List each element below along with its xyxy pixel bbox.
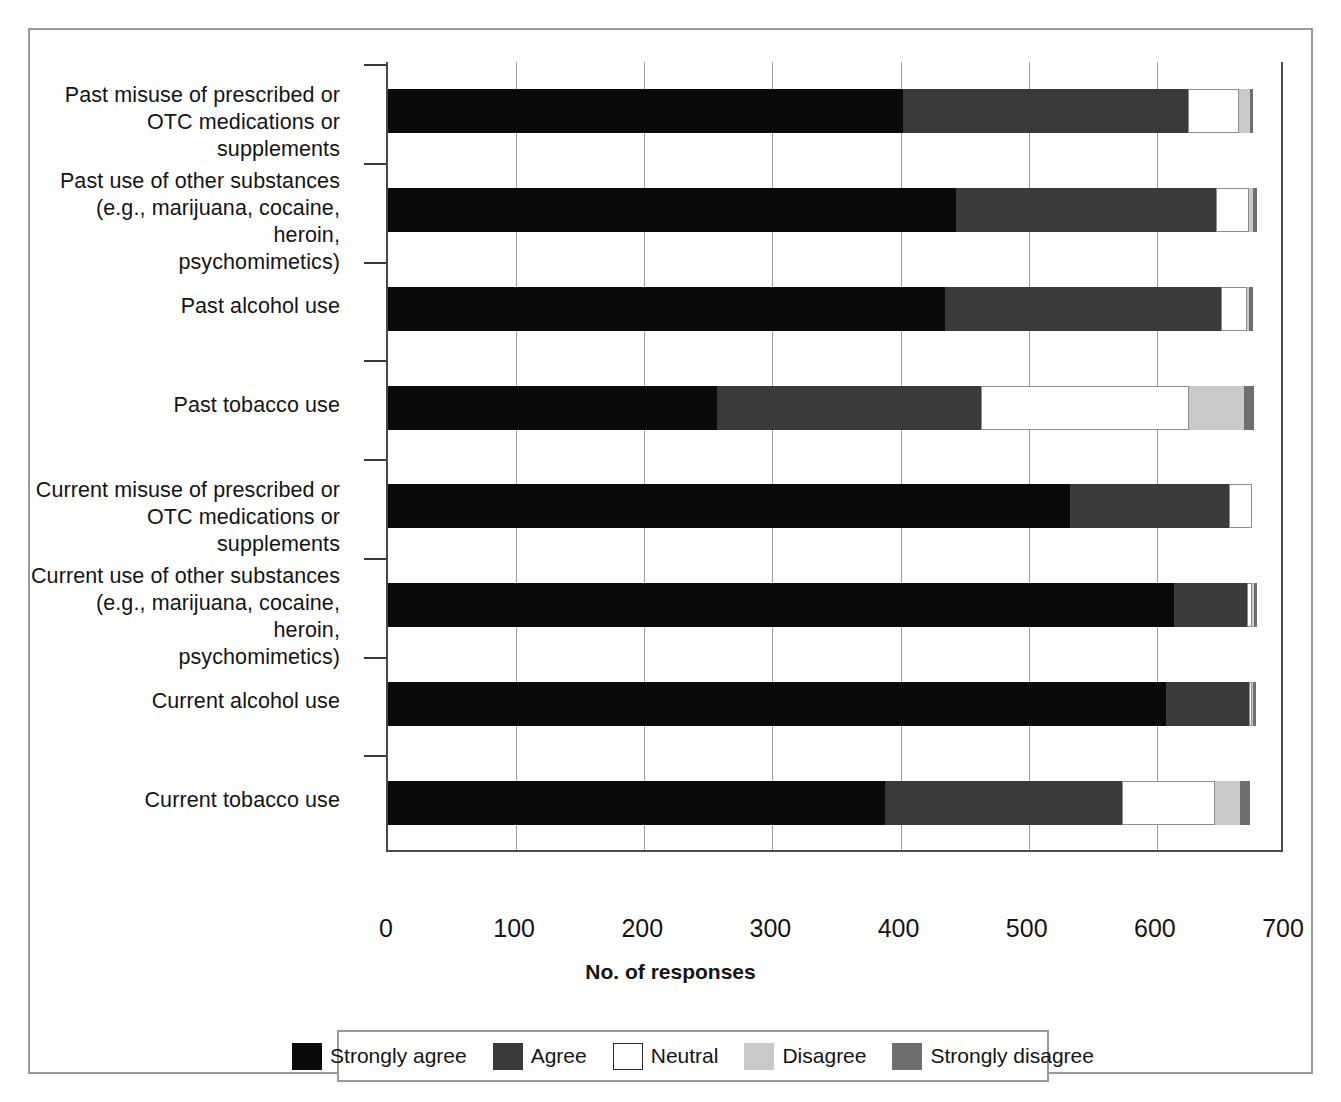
x-tick-label-400: 400 <box>878 914 920 943</box>
category-label: Current alcohol use <box>30 688 340 715</box>
bar-segment-neutral[interactable] <box>1122 781 1214 825</box>
bar-segment-neutral[interactable] <box>1221 287 1247 331</box>
stacked-bar[interactable] <box>388 583 1257 627</box>
category-tick <box>364 163 386 165</box>
legend-label: Disagree <box>782 1044 866 1068</box>
bar-segment-strongly-agree[interactable] <box>388 89 903 133</box>
plot-area <box>386 62 1283 852</box>
bar-segment-strongly-disagree[interactable] <box>1250 89 1253 133</box>
category-label-line: OTC medications or supplements <box>30 109 340 163</box>
bar-segment-strongly-agree[interactable] <box>388 484 1070 528</box>
plot-area-wrapper <box>352 62 1283 892</box>
category-label-line: Past tobacco use <box>30 392 340 419</box>
chart-frame: Past misuse of prescribed orOTC medicati… <box>28 28 1313 1074</box>
bar-segment-strongly-agree[interactable] <box>388 682 1166 726</box>
legend-label: Strongly agree <box>330 1044 467 1068</box>
x-axis-tick-labels: 0100200300400500600700 <box>386 914 1306 954</box>
chart-legend: Strongly agreeAgreeNeutralDisagreeStrong… <box>337 1030 1049 1082</box>
bar-segment-strongly-agree[interactable] <box>388 781 885 825</box>
category-tick <box>364 558 386 560</box>
category-label-line: (e.g., marijuana, cocaine, heroin, <box>30 590 340 644</box>
category-label: Past use of other substances(e.g., marij… <box>30 168 340 276</box>
bar-segment-strongly-disagree[interactable] <box>1253 682 1256 726</box>
category-tick <box>364 64 386 66</box>
chart-page: Past misuse of prescribed orOTC medicati… <box>0 0 1341 1102</box>
legend-swatch-icon <box>613 1043 643 1070</box>
category-label: Past misuse of prescribed orOTC medicati… <box>30 82 340 163</box>
category-label-line: Past misuse of prescribed or <box>30 82 340 109</box>
bar-segment-neutral[interactable] <box>1216 188 1249 232</box>
x-tick-label-300: 300 <box>750 914 792 943</box>
legend-item-disagree[interactable]: Disagree <box>744 1043 866 1070</box>
category-tick <box>364 755 386 757</box>
bar-segment-strongly-disagree[interactable] <box>1244 386 1254 430</box>
bar-segment-disagree[interactable] <box>1215 781 1241 825</box>
category-label: Current tobacco use <box>30 787 340 814</box>
legend-item-strongly-disagree[interactable]: Strongly disagree <box>892 1043 1093 1070</box>
bar-segment-disagree[interactable] <box>1189 386 1244 430</box>
category-tick <box>364 262 386 264</box>
bar-segment-strongly-disagree[interactable] <box>1240 781 1250 825</box>
bar-segment-strongly-agree[interactable] <box>388 386 717 430</box>
bar-segment-agree[interactable] <box>945 287 1221 331</box>
category-label-line: Current misuse of prescribed or <box>30 477 340 504</box>
bar-segment-agree[interactable] <box>903 89 1187 133</box>
bar-segment-neutral[interactable] <box>981 386 1189 430</box>
bar-segment-neutral[interactable] <box>1188 89 1239 133</box>
bar-segment-strongly-agree[interactable] <box>388 583 1174 627</box>
legend-swatch-icon <box>892 1043 922 1070</box>
stacked-bar[interactable] <box>388 188 1257 232</box>
stacked-bar[interactable] <box>388 781 1250 825</box>
bar-segment-agree[interactable] <box>1174 583 1247 627</box>
legend-item-strongly-agree[interactable]: Strongly agree <box>292 1043 467 1070</box>
stacked-bar[interactable] <box>388 89 1253 133</box>
category-tick <box>364 657 386 659</box>
bar-segment-agree[interactable] <box>1070 484 1229 528</box>
category-label-line: Current tobacco use <box>30 787 340 814</box>
bar-segment-agree[interactable] <box>956 188 1216 232</box>
category-label: Past tobacco use <box>30 392 340 419</box>
bar-segment-strongly-disagree[interactable] <box>1253 188 1257 232</box>
stacked-bar[interactable] <box>388 484 1252 528</box>
x-tick-label-600: 600 <box>1134 914 1176 943</box>
x-axis-title: No. of responses <box>30 960 1311 984</box>
x-tick-label-0: 0 <box>379 914 393 943</box>
stacked-bar[interactable] <box>388 682 1256 726</box>
legend-label: Strongly disagree <box>930 1044 1093 1068</box>
bar-segment-strongly-agree[interactable] <box>388 287 945 331</box>
bar-segment-disagree[interactable] <box>1239 89 1251 133</box>
legend-swatch-icon <box>493 1043 523 1070</box>
category-label-line: Past use of other substances <box>30 168 340 195</box>
legend-item-neutral[interactable]: Neutral <box>613 1043 719 1070</box>
category-label-line: (e.g., marijuana, cocaine, heroin, <box>30 195 340 249</box>
bar-segment-agree[interactable] <box>717 386 981 430</box>
category-label-line: Current use of other substances <box>30 563 340 590</box>
legend-item-agree[interactable]: Agree <box>493 1043 587 1070</box>
category-tick <box>364 459 386 461</box>
bar-segment-strongly-disagree[interactable] <box>1254 583 1257 627</box>
category-label-line: OTC medications or supplements <box>30 504 340 558</box>
category-label-line: Past alcohol use <box>30 293 340 320</box>
category-label-line: Current alcohol use <box>30 688 340 715</box>
stacked-bar[interactable] <box>388 386 1254 430</box>
x-tick-label-700: 700 <box>1262 914 1304 943</box>
category-label-line: psychomimetics) <box>30 249 340 276</box>
x-tick-label-100: 100 <box>493 914 535 943</box>
category-axis-labels: Past misuse of prescribed orOTC medicati… <box>30 62 348 852</box>
category-label-line: psychomimetics) <box>30 644 340 671</box>
stacked-bar[interactable] <box>388 287 1253 331</box>
bar-segment-agree[interactable] <box>1166 682 1249 726</box>
bar-rows <box>388 62 1281 850</box>
bar-segment-strongly-disagree[interactable] <box>1249 287 1253 331</box>
legend-swatch-icon <box>744 1043 774 1070</box>
x-tick-label-500: 500 <box>1006 914 1048 943</box>
bar-segment-neutral[interactable] <box>1229 484 1252 528</box>
x-tick-label-200: 200 <box>621 914 663 943</box>
legend-label: Agree <box>531 1044 587 1068</box>
bar-segment-agree[interactable] <box>885 781 1122 825</box>
category-label: Current misuse of prescribed orOTC medic… <box>30 477 340 558</box>
bar-segment-strongly-agree[interactable] <box>388 188 956 232</box>
category-label: Current use of other substances(e.g., ma… <box>30 563 340 671</box>
legend-swatch-icon <box>292 1043 322 1070</box>
category-label: Past alcohol use <box>30 293 340 320</box>
